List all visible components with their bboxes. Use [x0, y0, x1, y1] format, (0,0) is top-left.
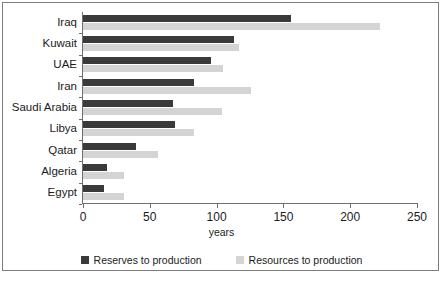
y-axis-tick: [79, 76, 82, 77]
bar: [83, 100, 173, 107]
bar: [83, 44, 239, 51]
x-axis-tick-label: 250: [407, 210, 427, 224]
bar: [83, 23, 380, 30]
bar: [83, 193, 124, 200]
bar: [83, 151, 158, 158]
bar-group: [83, 76, 417, 97]
square-swatch-light: [236, 256, 244, 264]
legend-label: Reserves to production: [94, 254, 202, 266]
x-axis-tick-label: 0: [80, 210, 87, 224]
legend-entry: Resources to production: [236, 254, 363, 266]
x-axis-tick-label: 50: [143, 210, 156, 224]
y-axis-category-label: UAE: [3, 58, 77, 70]
y-axis-tick: [79, 183, 82, 184]
x-axis-tick: [83, 204, 84, 208]
bar-group: [83, 12, 417, 33]
y-axis-tick: [79, 119, 82, 120]
bar: [83, 79, 194, 86]
y-axis-category-label: Libya: [3, 122, 77, 134]
bar: [83, 65, 223, 72]
y-axis-category-label: Algeria: [3, 165, 77, 177]
x-axis-tick-label: 150: [273, 210, 293, 224]
bar-group: [83, 97, 417, 118]
bar: [83, 36, 234, 43]
square-swatch-dark: [81, 256, 89, 264]
x-axis-tick: [217, 204, 218, 208]
y-axis-category-label: Kuwait: [3, 37, 77, 49]
bar: [83, 129, 194, 136]
x-axis-tick: [150, 204, 151, 208]
x-axis-title: years: [3, 226, 440, 238]
bar-group: [83, 161, 417, 182]
y-axis-tick: [79, 33, 82, 34]
bar: [83, 121, 175, 128]
bar: [83, 57, 211, 64]
y-axis-category-label: Iran: [3, 80, 77, 92]
y-axis-tick: [79, 97, 82, 98]
bar: [83, 172, 124, 179]
bar-group: [83, 33, 417, 54]
y-axis-category-label: Saudi Arabia: [3, 101, 77, 113]
bar-group: [83, 140, 417, 161]
legend-entry: Reserves to production: [81, 254, 202, 266]
bar: [83, 164, 107, 171]
x-axis-tick-label: 100: [207, 210, 227, 224]
bar-group: [83, 183, 417, 204]
bar-group: [83, 119, 417, 140]
chart-legend: Reserves to productionResources to produ…: [3, 254, 440, 266]
y-axis-tick: [79, 161, 82, 162]
plot-area: 050100150200250: [82, 12, 418, 204]
y-axis-category-label: Egypt: [3, 186, 77, 198]
x-axis-tick: [283, 204, 284, 208]
y-axis-category-label: Qatar: [3, 144, 77, 156]
y-axis-tick: [79, 204, 82, 205]
chart-figure-frame: IraqKuwaitUAEIranSaudi ArabiaLibyaQatarA…: [2, 2, 439, 271]
bar: [83, 143, 136, 150]
y-axis-tick: [79, 140, 82, 141]
legend-label: Resources to production: [249, 254, 363, 266]
x-axis-tick: [350, 204, 351, 208]
x-axis-tick-label: 200: [340, 210, 360, 224]
bar: [83, 87, 251, 94]
y-axis-tick: [79, 55, 82, 56]
bar: [83, 15, 291, 22]
bar-group: [83, 55, 417, 76]
bar: [83, 185, 104, 192]
y-axis-category-label: Iraq: [3, 16, 77, 28]
bar: [83, 108, 222, 115]
x-axis-tick: [417, 204, 418, 208]
